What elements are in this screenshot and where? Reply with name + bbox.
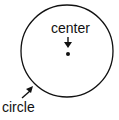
diagram-canvas: center circle bbox=[0, 0, 119, 120]
center-point bbox=[66, 52, 70, 56]
center-arrow-icon bbox=[64, 37, 72, 48]
circle-diagram: center circle bbox=[0, 0, 119, 120]
center-label: center bbox=[51, 20, 90, 36]
circle-label: circle bbox=[2, 99, 35, 115]
circle-shape bbox=[21, 5, 113, 97]
circle-arrow-icon bbox=[22, 86, 33, 98]
